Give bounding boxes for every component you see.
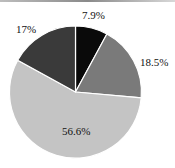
label-slice-1: 7.9% [82, 9, 105, 21]
label-slice-3: 56.6% [62, 125, 90, 137]
label-slice-4: 17% [16, 23, 36, 35]
label-slice-2: 18.5% [140, 56, 168, 68]
